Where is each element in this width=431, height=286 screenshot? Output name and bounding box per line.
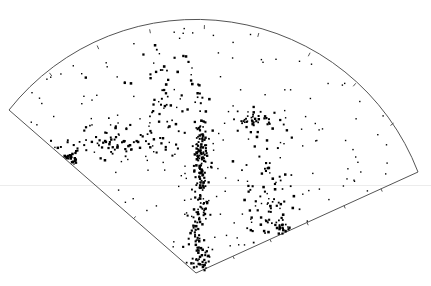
wedge-frame	[9, 19, 418, 273]
wedge-tick-marks	[49, 25, 393, 259]
galaxy-points	[31, 28, 388, 271]
redshift-wedge-chart	[0, 0, 431, 286]
